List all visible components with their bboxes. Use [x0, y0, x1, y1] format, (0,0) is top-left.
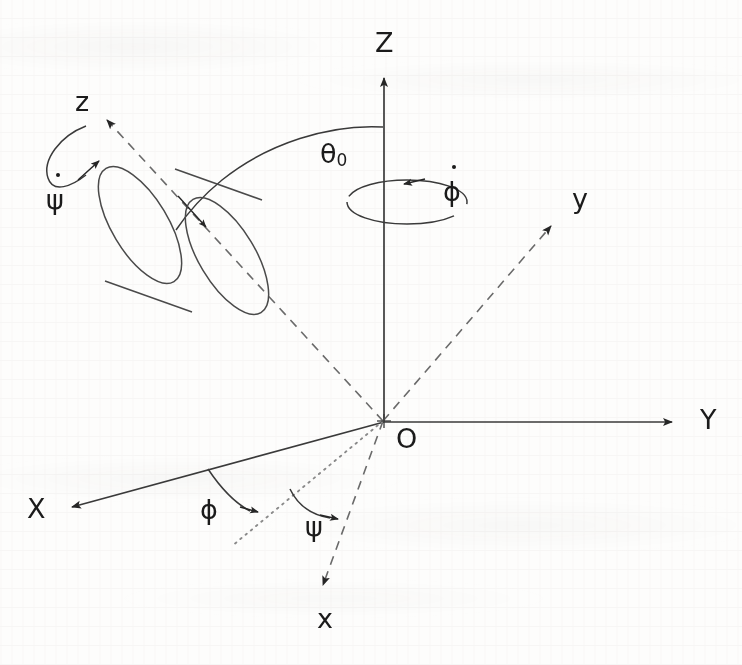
axis-label-Z: Z [375, 29, 394, 56]
psi-dot-symbol: ψ [46, 186, 64, 213]
psi-overdot-icon [56, 173, 60, 177]
axis-x-body-line [323, 421, 383, 585]
cylinder-top-body [82, 154, 285, 327]
theta-zero-label: θ0 [320, 140, 347, 169]
psi-dot-arrowhead [78, 161, 99, 180]
euler-angle-figure: Z Y X z y x O θ0 ϕ ψ ϕ ψ [0, 0, 742, 665]
theta-symbol: θ [320, 138, 337, 169]
axis-label-z-body: z [75, 88, 89, 115]
psi-angle-label: ψ [305, 513, 323, 540]
axis-label-y-body: y [572, 185, 588, 212]
theta-zero-arc [176, 127, 383, 230]
cylinder-wall-lower [105, 281, 192, 312]
axis-x-body [323, 421, 383, 585]
axis-y-body-line [383, 226, 551, 421]
phi-angle-label: ϕ [200, 496, 218, 523]
axis-y-body [383, 226, 551, 421]
phi-dot-symbol: ϕ [443, 178, 461, 205]
cylinder-back-face [82, 154, 198, 296]
axis-label-X: X [27, 495, 46, 522]
phi-overdot-icon [452, 165, 456, 169]
diagram-canvas [0, 0, 742, 665]
cylinder-wall-upper [175, 169, 262, 200]
origin-label: O [396, 425, 417, 452]
axis-label-x-body: x [317, 605, 333, 632]
theta-subscript: 0 [337, 150, 348, 170]
axis-label-Y: Y [700, 406, 717, 433]
psi-dot-rotation-indicator [47, 126, 99, 187]
